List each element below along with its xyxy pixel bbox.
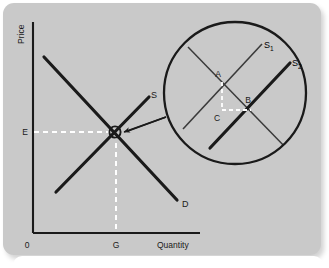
supply-curve-label: S bbox=[151, 90, 157, 100]
supply-curve bbox=[56, 97, 149, 192]
inset-point-c-label: C bbox=[214, 113, 220, 123]
magnifier-inset: A B C S 1 S 2 bbox=[164, 22, 306, 164]
inset-supply-s2-label: S 2 bbox=[292, 58, 302, 70]
y-axis-label: Price bbox=[16, 24, 26, 44]
origin-label: 0 bbox=[25, 240, 30, 250]
supply-demand-diagram: Price Quantity 0 E G D S bbox=[0, 0, 329, 268]
inset-supply-s1-subscript: 1 bbox=[270, 45, 274, 52]
inset-supply-s2-subscript: 2 bbox=[298, 63, 302, 70]
figure-stage: Price Quantity 0 E G D S bbox=[0, 0, 329, 268]
inset-supply-s1-line bbox=[183, 44, 262, 129]
price-equilibrium-label: E bbox=[22, 127, 28, 137]
x-axis-label: Quantity bbox=[157, 240, 189, 250]
inset-demand-line bbox=[188, 47, 288, 150]
equilibrium-guides bbox=[34, 132, 116, 232]
magnifier-arrow bbox=[124, 117, 166, 132]
inset-supply-s1-label: S 1 bbox=[264, 40, 274, 52]
magnifier-lens-rim bbox=[164, 22, 306, 164]
inset-point-a-label: A bbox=[215, 69, 221, 79]
magnifier-connector bbox=[124, 117, 166, 132]
inset-point-b-label: B bbox=[245, 95, 251, 105]
quantity-equilibrium-label: G bbox=[113, 240, 120, 250]
demand-curve-label: D bbox=[182, 199, 189, 209]
